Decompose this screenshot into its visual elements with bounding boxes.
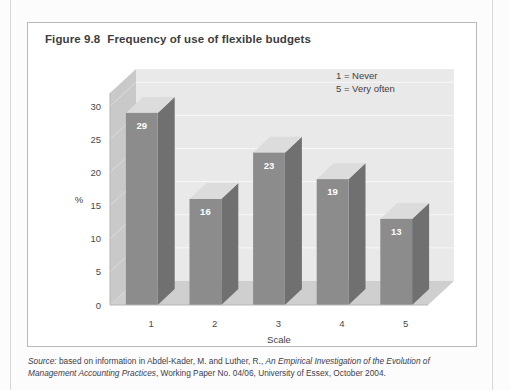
bar-value-label: 19 (327, 186, 338, 197)
x-tick-label: 3 (276, 318, 281, 329)
bar-side-face (158, 97, 175, 305)
source-text-2: , Working Paper No. 04/06, University of… (156, 368, 386, 378)
source-text-1: based on information in Abdel-Kader, M. … (57, 356, 266, 366)
y-tick-label: 0 (96, 300, 101, 311)
bar-side-face (349, 163, 366, 305)
bar-group[interactable]: 13 (380, 203, 429, 305)
x-tick-label: 1 (149, 318, 154, 329)
y-axis-title: % (75, 194, 84, 205)
y-tick-label: 20 (90, 167, 101, 178)
bar-group[interactable]: 16 (190, 183, 239, 305)
bar-value-label: 13 (391, 226, 402, 237)
source-note: Source: based on information in Abdel-Ka… (28, 355, 478, 379)
x-tick-label: 5 (403, 318, 408, 329)
page-left-rule (10, 0, 11, 390)
x-tick-label: 2 (212, 318, 217, 329)
y-tick-label: 10 (90, 233, 101, 244)
legend-line-2: 5 = Very often (336, 83, 395, 94)
bar-side-face (412, 203, 429, 305)
x-axis-title: Scale (267, 334, 291, 345)
x-tick-label: 4 (339, 318, 344, 329)
y-tick-label: 30 (90, 101, 101, 112)
bar-side-face (221, 183, 238, 305)
bar-chart-3d: 051015202530%291162233194135Scale1 = Nev… (28, 53, 478, 346)
figure-title: Figure 9.8Frequency of use of flexible b… (45, 33, 311, 45)
page-right-rule (492, 0, 493, 390)
legend-line-1: 1 = Never (336, 70, 377, 81)
bar-side-face (285, 137, 302, 305)
y-tick-label: 15 (90, 200, 101, 211)
bar-group[interactable]: 23 (253, 137, 302, 305)
bar-group[interactable]: 29 (126, 97, 175, 305)
y-tick-label: 25 (90, 134, 101, 145)
bar-front-face (317, 179, 349, 305)
chart-area: 051015202530%291162233194135Scale1 = Nev… (28, 53, 478, 346)
bar-front-face (126, 113, 158, 305)
bar-group[interactable]: 19 (317, 163, 366, 305)
bar-value-label: 29 (137, 120, 148, 131)
bar-front-face (253, 153, 285, 305)
figure-title-text: Frequency of use of flexible budgets (107, 33, 311, 45)
source-label: Source: (28, 356, 57, 366)
bar-value-label: 23 (264, 160, 275, 171)
y-tick-label: 5 (96, 266, 101, 277)
figure-number: Figure 9.8 (45, 33, 100, 45)
bar-value-label: 16 (200, 206, 211, 217)
page-root: Figure 9.8Frequency of use of flexible b… (0, 0, 510, 390)
figure-box: Figure 9.8Frequency of use of flexible b… (27, 22, 477, 347)
